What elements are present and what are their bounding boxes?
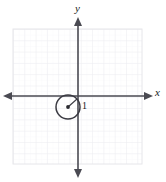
x-axis-arrow-left bbox=[3, 92, 12, 100]
y-axis-label: y bbox=[75, 3, 80, 14]
circle-center-point bbox=[66, 105, 70, 109]
coordinate-plane-figure: y x 1 bbox=[0, 0, 166, 182]
y-axis-arrow-down bbox=[74, 169, 82, 178]
y-axis-arrow-up bbox=[74, 17, 82, 26]
radius-length-label: 1 bbox=[82, 101, 87, 111]
x-axis-label: x bbox=[155, 87, 160, 98]
x-axis-arrow-right bbox=[144, 92, 153, 100]
graph-canvas bbox=[0, 0, 166, 182]
